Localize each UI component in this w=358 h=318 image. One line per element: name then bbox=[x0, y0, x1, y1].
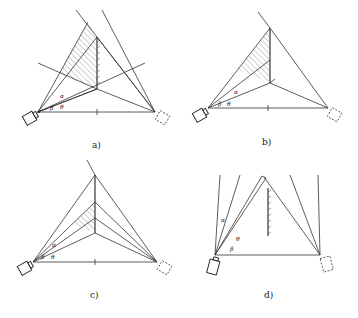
panel-caption: d) bbox=[264, 290, 273, 300]
shaded-zone bbox=[238, 28, 270, 83]
angle-alpha-label: α bbox=[52, 241, 56, 248]
angle-theta-label: θ bbox=[60, 103, 64, 110]
angle-alpha-label: α bbox=[221, 216, 225, 223]
panel-caption: b) bbox=[262, 137, 271, 147]
camera-icon bbox=[207, 256, 221, 275]
shaded-zone bbox=[72, 202, 95, 233]
panel-d: α θ β d) bbox=[207, 175, 334, 300]
angle-alpha-label: α bbox=[60, 92, 64, 99]
angle-theta-label: θ bbox=[51, 253, 55, 260]
panel-c: α β θ c) bbox=[17, 160, 172, 300]
angle-beta-label: β bbox=[229, 245, 234, 253]
angle-beta-label: β bbox=[49, 104, 54, 112]
camera-icon bbox=[17, 260, 34, 276]
virtual-camera-icon bbox=[320, 256, 333, 272]
angle-theta-label: θ bbox=[236, 235, 240, 242]
panel-caption: a) bbox=[92, 140, 101, 150]
angle-alpha-label: α bbox=[234, 88, 238, 95]
camera-icon bbox=[192, 107, 209, 123]
angle-beta-label: β bbox=[40, 253, 45, 261]
camera-icon bbox=[22, 110, 39, 126]
virtual-camera-icon bbox=[157, 261, 172, 275]
panel-b: α β θ b) bbox=[192, 12, 342, 147]
diagram-figure: α β θ a) α β θ b) bbox=[0, 0, 358, 318]
angle-beta-label: β bbox=[217, 100, 222, 108]
panel-a: α β θ a) bbox=[22, 10, 170, 150]
panel-caption: c) bbox=[90, 290, 99, 300]
virtual-camera-icon bbox=[327, 108, 342, 122]
angle-theta-label: θ bbox=[227, 100, 231, 107]
virtual-camera-icon bbox=[155, 111, 170, 125]
